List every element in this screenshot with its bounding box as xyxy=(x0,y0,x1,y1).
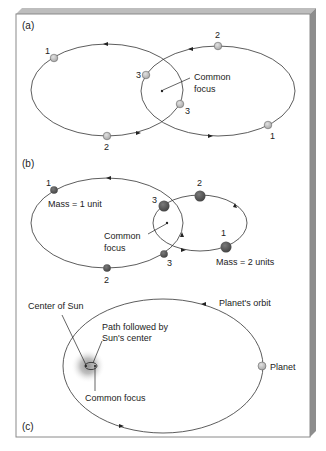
point-label: 3 xyxy=(152,195,157,205)
point-label: 2 xyxy=(104,275,109,285)
planet-label: Planet xyxy=(270,362,296,372)
sun-path-label: Path followed by xyxy=(102,322,169,332)
body-a-left-3 xyxy=(176,100,184,108)
point-label: 2 xyxy=(104,142,109,152)
body-b-large-1 xyxy=(221,242,232,253)
body-b-large-2 xyxy=(195,191,206,202)
panel-right-edge xyxy=(310,8,316,437)
orbit-figure: (a) Common focus 1 2 3 2 3 1 (b) xyxy=(0,0,326,451)
body-a-right-3 xyxy=(142,71,150,79)
point-label: 3 xyxy=(185,106,190,116)
panel-top-bevel xyxy=(16,8,316,14)
center-of-sun-label: Center of Sun xyxy=(28,301,84,311)
body-b-small-3b xyxy=(160,250,168,258)
mass-large-label: Mass = 2 units xyxy=(216,257,275,267)
panel-b-label: (b) xyxy=(22,158,34,169)
common-focus-label: Common xyxy=(104,231,141,241)
planet-body xyxy=(258,362,266,370)
point-label: 1 xyxy=(221,228,226,238)
sun-glow xyxy=(71,349,105,383)
point-label: 1 xyxy=(270,131,275,141)
body-a-left-1 xyxy=(50,54,58,62)
panel-a-label: (a) xyxy=(22,20,34,31)
body-a-left-2 xyxy=(103,132,111,140)
point-label: 2 xyxy=(197,178,202,188)
point-label: 1 xyxy=(46,178,51,188)
body-b-small-3a xyxy=(159,201,170,212)
body-b-small-2 xyxy=(103,264,111,272)
point-label: 3 xyxy=(167,258,172,268)
sun-path-label: Sun's center xyxy=(102,333,152,343)
common-focus-dot xyxy=(166,222,168,224)
common-focus-label: Common xyxy=(194,72,231,82)
common-focus-label: Common focus xyxy=(85,393,146,403)
common-focus-dot xyxy=(161,90,163,92)
point-label: 1 xyxy=(45,46,50,56)
mass-small-label: Mass = 1 unit xyxy=(48,199,102,209)
center-of-sun-dot xyxy=(85,365,87,367)
body-a-right-1 xyxy=(264,121,272,129)
point-label: 3 xyxy=(136,70,141,80)
body-b-small-1 xyxy=(50,186,58,194)
body-a-right-2 xyxy=(214,42,222,50)
common-focus-dot xyxy=(94,365,96,367)
planet-orbit-label: Planet's orbit xyxy=(219,298,271,308)
point-label: 2 xyxy=(215,30,220,40)
common-focus-label: focus xyxy=(104,243,126,253)
common-focus-label: focus xyxy=(194,84,216,94)
panel-c-label: (c) xyxy=(22,421,34,432)
